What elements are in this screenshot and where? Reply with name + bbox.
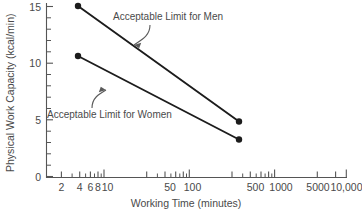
y-axis-tick-labels: 0 5 10 15 <box>29 1 41 183</box>
x-tick-label-4: 4 <box>77 181 83 193</box>
chart-figure: 0 5 10 15 Physical Work Capacity (kcal/m… <box>0 0 362 215</box>
chart-svg: 0 5 10 15 Physical Work Capacity (kcal/m… <box>0 0 362 215</box>
y-tick-label-10: 10 <box>29 57 41 69</box>
y-axis-ticks <box>47 7 54 177</box>
series-women-point-end <box>236 136 242 142</box>
series-men-point-end <box>236 118 242 124</box>
y-tick-label-15: 15 <box>29 1 41 13</box>
x-tick-label-100: 100 <box>184 181 202 193</box>
x-axis-ticks <box>61 170 346 178</box>
x-tick-label-10000: 10,000 <box>330 181 362 193</box>
x-axis-title: Working Time (minutes) <box>131 197 242 209</box>
x-tick-label-500: 500 <box>247 181 265 193</box>
y-tick-label-0: 0 <box>35 171 41 183</box>
x-tick-label-1000: 1000 <box>269 181 293 193</box>
x-tick-label-5000: 5000 <box>306 181 330 193</box>
series-men-point-start <box>75 3 81 9</box>
men-annotation-label: Acceptable Limit for Men <box>113 11 223 22</box>
x-tick-label-10: 10 <box>102 181 114 193</box>
women-annotation-label: Acceptable Limit for Women <box>47 109 172 120</box>
men-annotation-leader <box>134 25 150 45</box>
x-tick-label-8: 8 <box>95 181 101 193</box>
women-annotation-arrowhead <box>99 87 106 92</box>
x-axis-tick-labels: 2 4 6 8 10 50 100 500 1000 5000 10,000 <box>58 181 362 193</box>
series-women-point-start <box>75 53 81 59</box>
y-tick-label-5: 5 <box>35 114 41 126</box>
series-women <box>75 53 242 143</box>
series-men-line <box>78 6 239 122</box>
women-annotation: Acceptable Limit for Women <box>47 87 172 120</box>
y-axis-title: Physical Work Capacity (kcal/min) <box>4 13 16 172</box>
series-women-line <box>78 56 239 140</box>
women-annotation-leader <box>92 90 106 108</box>
x-tick-label-2: 2 <box>58 181 64 193</box>
x-tick-label-50: 50 <box>164 181 176 193</box>
x-tick-label-6: 6 <box>87 181 93 193</box>
